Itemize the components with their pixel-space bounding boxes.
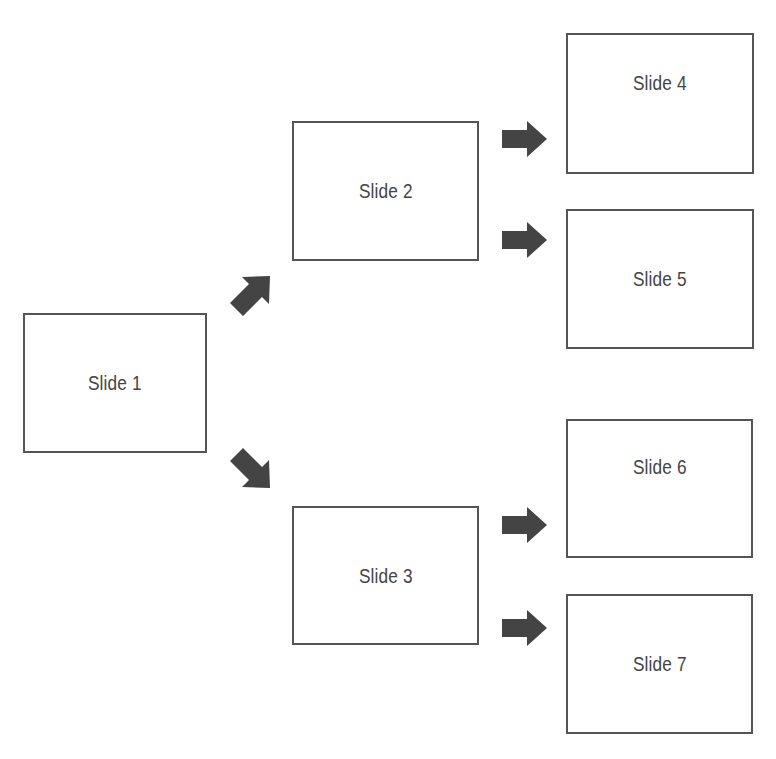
slide-6-box: Slide 6 xyxy=(566,419,753,558)
slide-7-box: Slide 7 xyxy=(566,594,753,734)
slide-6-label: Slide 6 xyxy=(633,455,687,479)
cropped-heading-text xyxy=(0,0,776,8)
slide-5-box: Slide 5 xyxy=(566,209,754,349)
slide-3-box: Slide 3 xyxy=(292,506,479,645)
slide-3-label: Slide 3 xyxy=(359,564,413,588)
arrow-right-icon xyxy=(502,507,547,543)
slide-7-label: Slide 7 xyxy=(633,652,687,676)
slide-4-box: Slide 4 xyxy=(566,33,754,174)
slide-5-label: Slide 5 xyxy=(633,267,687,291)
slide-1-label: Slide 1 xyxy=(88,371,142,395)
slide-2-box: Slide 2 xyxy=(292,121,479,261)
arrow-right-icon xyxy=(502,610,547,646)
arrow-down-right-icon xyxy=(230,448,274,492)
slide-2-label: Slide 2 xyxy=(359,179,413,203)
slide-4-label: Slide 4 xyxy=(633,71,687,95)
arrow-right-icon xyxy=(502,121,547,157)
arrow-right-icon xyxy=(502,222,547,258)
arrow-up-right-icon xyxy=(230,272,274,316)
slide-1-box: Slide 1 xyxy=(23,313,207,453)
